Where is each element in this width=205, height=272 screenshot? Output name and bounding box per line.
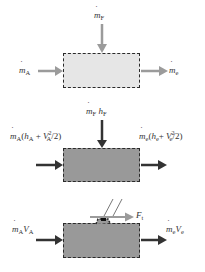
pylon-mount — [96, 199, 122, 224]
thrust-force-label: Ft — [136, 211, 143, 222]
exit-momentum-label: meVe — [166, 225, 184, 236]
momentum-balance-panel: Ft mAVA meVe — [0, 0, 205, 272]
air-momentum-label: mAVA — [12, 225, 33, 236]
